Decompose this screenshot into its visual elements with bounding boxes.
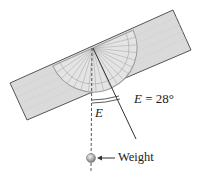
weight-label: Weight: [118, 151, 154, 164]
angle-equation: E = 28°: [134, 92, 174, 105]
weight-arrow-head-icon: [97, 156, 102, 161]
diagram-canvas: [0, 0, 199, 175]
angle-arc-outer: [92, 96, 119, 100]
angle-equals: =: [142, 91, 156, 106]
angle-value: 28°: [156, 91, 174, 106]
arc-label: E: [95, 106, 103, 119]
weight-ball: [87, 154, 96, 163]
angle-variable: E: [134, 91, 142, 106]
